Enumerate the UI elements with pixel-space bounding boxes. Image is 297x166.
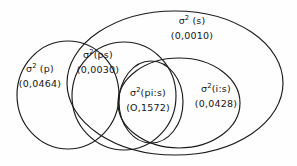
label-sigma-s-value: (0,0010) — [150, 29, 234, 43]
label-sigma-pi-s: σ2(pi:s) (O,1572) — [110, 86, 186, 115]
label-sigma-s: σ2 (s) (0,0010) — [150, 14, 234, 43]
label-sigma-i-s-value: (0,0428) — [181, 97, 251, 111]
label-sigma-i-s: σ2(i:s) (0,0428) — [181, 82, 251, 111]
label-sigma-p-value: (0,0464) — [7, 77, 73, 91]
label-sigma-pi-s-value: (O,1572) — [110, 101, 186, 115]
label-sigma-s-name: σ2 (s) — [150, 14, 234, 28]
label-sigma-ps-name: σ2(ps) — [62, 48, 134, 62]
label-sigma-p-name: σ2 (p) — [7, 62, 73, 76]
label-sigma-i-s-name: σ2(i:s) — [181, 82, 251, 96]
label-sigma-p: σ2 (p) (0,0464) — [7, 62, 73, 91]
label-sigma-pi-s-name: σ2(pi:s) — [110, 86, 186, 100]
venn-diagram-figure: σ2 (s) (0,0010) σ2(ps) (0,0030) σ2 (p) (… — [0, 0, 297, 166]
